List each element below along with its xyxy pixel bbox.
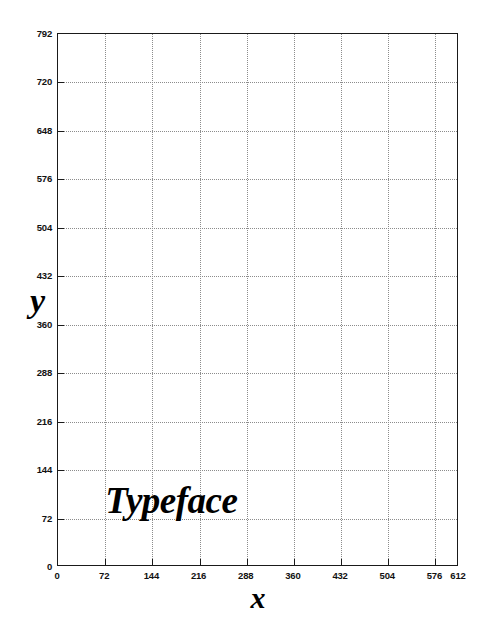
y-axis-tick-label: 792 (0, 28, 52, 39)
horizontal-gridline (58, 325, 457, 326)
x-axis-tick-label: 432 (332, 570, 347, 581)
x-axis-tick-label: 576 (427, 570, 442, 581)
y-axis-tick (58, 131, 64, 132)
x-axis-tick-label: 0 (54, 570, 59, 581)
plot-figure: y x 072144216288360432504576612 07214421… (0, 0, 485, 627)
y-axis-tick (58, 82, 64, 83)
y-axis-tick (58, 373, 64, 374)
y-axis-tick-label: 576 (0, 173, 52, 184)
x-axis-tick-label: 216 (191, 570, 206, 581)
horizontal-gridline (58, 276, 457, 277)
y-axis-tick (58, 276, 64, 277)
x-axis-tick (200, 559, 201, 565)
y-axis-tick-label: 360 (0, 318, 52, 329)
x-axis-tick (152, 559, 153, 565)
x-axis-tick (388, 559, 389, 565)
y-axis-tick-label: 432 (0, 270, 52, 281)
vertical-gridline (388, 34, 389, 565)
y-axis-tick-label: 0 (0, 561, 52, 572)
x-axis-tick (105, 559, 106, 565)
y-axis-tick (58, 519, 64, 520)
x-axis-tick (247, 559, 248, 565)
horizontal-gridline (58, 179, 457, 180)
horizontal-gridline (58, 373, 457, 374)
vertical-gridline (435, 34, 436, 565)
y-axis-tick-label: 504 (0, 221, 52, 232)
x-axis-tick (294, 559, 295, 565)
vertical-gridline (294, 34, 295, 565)
x-axis-tick-label: 612 (450, 570, 465, 581)
x-axis-tick (435, 559, 436, 565)
y-axis-tick-label: 720 (0, 76, 52, 87)
y-axis-tick-label: 72 (0, 512, 52, 523)
y-axis-tick (58, 470, 64, 471)
x-axis-tick-label: 288 (238, 570, 253, 581)
horizontal-gridline (58, 228, 457, 229)
x-axis-tick-label: 504 (380, 570, 395, 581)
horizontal-gridline (58, 470, 457, 471)
vertical-gridline (341, 34, 342, 565)
y-axis-tick (58, 179, 64, 180)
y-axis-tick (58, 422, 64, 423)
y-axis-tick-label: 648 (0, 124, 52, 135)
x-axis-tick-label: 72 (99, 570, 109, 581)
x-axis-tick-label: 360 (285, 570, 300, 581)
y-axis-tick-label: 288 (0, 367, 52, 378)
x-axis-tick (341, 559, 342, 565)
y-axis-tick (58, 228, 64, 229)
vertical-gridline (247, 34, 248, 565)
x-axis-title: x (251, 583, 266, 613)
horizontal-gridline (58, 131, 457, 132)
plot-annotation-text: Typeface (105, 482, 237, 519)
horizontal-gridline (58, 422, 457, 423)
plot-area: Typeface (57, 33, 458, 566)
y-axis-title: y (30, 284, 45, 318)
x-axis-tick-label: 144 (144, 570, 159, 581)
horizontal-gridline (58, 82, 457, 83)
y-axis-tick-label: 144 (0, 464, 52, 475)
y-axis-tick-label: 216 (0, 415, 52, 426)
y-axis-tick (58, 325, 64, 326)
